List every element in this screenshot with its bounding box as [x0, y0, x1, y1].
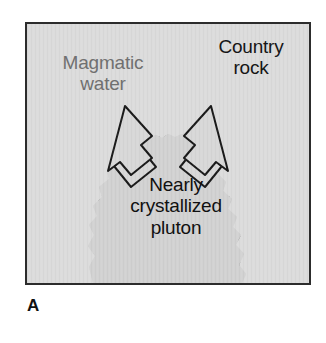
diagram-panel: Magmatic water Country rock Nearly cryst… [25, 22, 311, 285]
label-country-rock: Country rock [195, 36, 307, 79]
panel-caption-letter: A [27, 296, 39, 316]
figure-root: Magmatic water Country rock Nearly cryst… [0, 0, 326, 343]
label-nearly-crystallized-pluton: Nearly crystallized pluton [101, 174, 251, 238]
label-magmatic-water: Magmatic water [37, 52, 169, 95]
